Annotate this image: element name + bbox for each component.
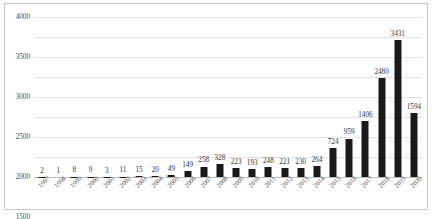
bar-slot: 328 bbox=[212, 17, 228, 177]
bar-value-label: 1594 bbox=[407, 104, 421, 111]
bar-slot: 223 bbox=[228, 17, 244, 177]
bar-slot: 221 bbox=[277, 17, 293, 177]
bar-slot: 248 bbox=[260, 17, 276, 177]
bar-value-label: 724 bbox=[328, 139, 339, 146]
bar-slot: 258 bbox=[196, 17, 212, 177]
bar-value-label: 15 bbox=[135, 167, 142, 174]
bar-value-label: 959 bbox=[344, 129, 355, 136]
bar[interactable] bbox=[346, 139, 353, 177]
bar-value-label: 221 bbox=[279, 159, 290, 166]
bar-slot: 15 bbox=[131, 17, 147, 177]
bar-value-label: 223 bbox=[231, 159, 242, 166]
y-axis-tick-label: 4000 bbox=[16, 14, 30, 21]
y-axis-tick-label: 1500 bbox=[16, 214, 30, 215]
bar-slot: 1406 bbox=[357, 17, 373, 177]
bar[interactable] bbox=[362, 121, 369, 177]
bar-series: 2189311152049149258328223193248221230264… bbox=[34, 17, 422, 177]
bar-value-label: 264 bbox=[312, 157, 323, 164]
bar-slot: 3 bbox=[99, 17, 115, 177]
bar-value-label: 149 bbox=[182, 162, 193, 169]
bar-value-label: 20 bbox=[152, 167, 159, 174]
bar-slot: 2480 bbox=[374, 17, 390, 177]
bar-slot: 11 bbox=[115, 17, 131, 177]
x-axis-labels: 1997199819992000200120022003200420052006… bbox=[34, 179, 422, 211]
bar-value-label: 258 bbox=[198, 157, 209, 164]
bar-value-label: 8 bbox=[73, 167, 77, 174]
bar-value-label: 3 bbox=[105, 168, 109, 175]
y-axis-tick-label: 3000 bbox=[16, 94, 30, 101]
bar-slot: 230 bbox=[293, 17, 309, 177]
bar-value-label: 3431 bbox=[391, 31, 405, 38]
bar-slot: 959 bbox=[341, 17, 357, 177]
bar[interactable] bbox=[394, 40, 401, 177]
bar-slot: 1594 bbox=[406, 17, 422, 177]
bar-value-label: 193 bbox=[247, 160, 258, 167]
bar-slot: 49 bbox=[163, 17, 179, 177]
bar-value-label: 230 bbox=[295, 159, 306, 166]
bar-slot: 264 bbox=[309, 17, 325, 177]
bar-value-label: 2480 bbox=[374, 69, 388, 76]
bar-slot: 9 bbox=[83, 17, 99, 177]
y-axis-tick-label: 2500 bbox=[16, 134, 30, 141]
bar[interactable] bbox=[330, 148, 337, 177]
bar-slot: 1 bbox=[50, 17, 66, 177]
bar-value-label: 248 bbox=[263, 158, 274, 165]
chart-figure: 05001000150020002500300035004000 2189311… bbox=[4, 3, 428, 210]
bar-slot: 149 bbox=[180, 17, 196, 177]
y-axis-tick-label: 2000 bbox=[16, 174, 30, 181]
bar-slot: 8 bbox=[66, 17, 82, 177]
bar-value-label: 9 bbox=[89, 167, 93, 174]
bar[interactable] bbox=[378, 78, 385, 177]
bar-value-label: 2 bbox=[40, 168, 44, 175]
bar-slot: 2 bbox=[34, 17, 50, 177]
bar-slot: 3431 bbox=[390, 17, 406, 177]
bar-value-label: 1406 bbox=[358, 112, 372, 119]
bar[interactable] bbox=[410, 113, 417, 177]
bar-slot: 193 bbox=[244, 17, 260, 177]
bar-slot: 20 bbox=[147, 17, 163, 177]
y-axis-tick-label: 3500 bbox=[16, 54, 30, 61]
bar-value-label: 328 bbox=[215, 155, 226, 162]
bar-slot: 724 bbox=[325, 17, 341, 177]
bar-value-label: 49 bbox=[168, 166, 175, 173]
bar-value-label: 1 bbox=[56, 168, 60, 175]
bar-value-label: 11 bbox=[119, 167, 126, 174]
